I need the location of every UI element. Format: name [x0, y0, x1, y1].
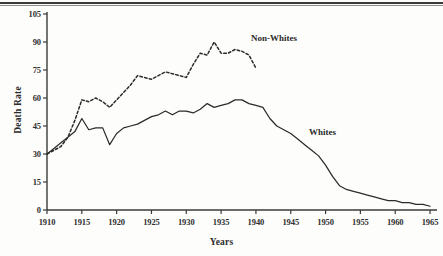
y-tick-label: 90: [8, 37, 41, 47]
axes-group: [43, 12, 437, 214]
y-tick-label: 0: [8, 205, 41, 215]
y-axis-title: Death Rate: [13, 75, 23, 145]
y-tick-label: 15: [8, 177, 41, 187]
series-label-non-whites: Non-Whites: [251, 33, 297, 43]
series-group: [47, 42, 430, 206]
y-tick-label: 105: [8, 9, 41, 19]
x-axis-title: Years: [0, 237, 443, 247]
series-line-whites: [47, 100, 430, 206]
series-line-non-whites: [47, 42, 256, 154]
x-tick-label: 1965: [410, 217, 443, 227]
y-tick-label: 75: [8, 65, 41, 75]
figure-container: 0153045607590105 19101915192019251930193…: [0, 0, 443, 256]
y-tick-label: 30: [8, 149, 41, 159]
series-label-whites: Whites: [309, 127, 336, 137]
